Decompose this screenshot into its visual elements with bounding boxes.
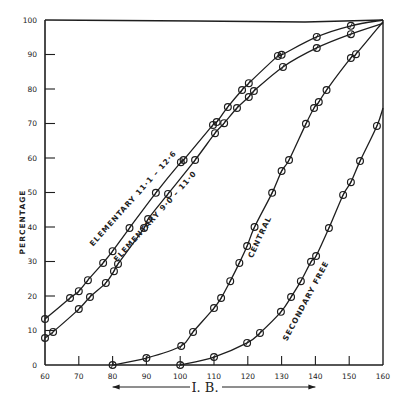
series-2 (109, 22, 383, 369)
data-point-slash (192, 329, 195, 335)
data-point-slash (299, 278, 302, 284)
y-tick-label: 60 (27, 154, 37, 163)
data-point-slash (290, 294, 293, 300)
x-tick-label: 160 (376, 372, 391, 381)
chart: 0102030405060708090100607080901001101201… (0, 0, 403, 408)
data-point-slash (77, 288, 80, 294)
series-line (45, 23, 383, 338)
data-point-slash (86, 277, 89, 283)
x-tick-label: 150 (342, 372, 357, 381)
x-tick-label: 80 (108, 372, 118, 381)
series-line (113, 22, 383, 365)
data-point-slash (154, 190, 157, 196)
data-point-slash (235, 105, 238, 111)
data-point-slash (325, 87, 328, 93)
x-tick-label: 70 (74, 372, 84, 381)
y-tick-label: 90 (27, 50, 37, 59)
y-tick-label: 40 (27, 223, 37, 232)
data-point-slash (349, 179, 352, 185)
series-0 (42, 20, 383, 323)
data-point-slash (253, 224, 256, 230)
data-point-slash (349, 55, 352, 61)
data-point-slash (214, 130, 217, 136)
y-axis-title: PERCENTAGE (18, 190, 27, 255)
y-tick-label: 80 (27, 85, 37, 94)
series-group (42, 20, 383, 368)
y-tick-label: 0 (32, 361, 37, 370)
y-tick-label: 20 (27, 292, 37, 301)
data-point-slash (128, 225, 131, 231)
data-point-slash (69, 295, 72, 301)
data-point-slash (313, 105, 316, 111)
x-tick-label: 90 (142, 372, 152, 381)
x-tick-label: 120 (241, 372, 256, 381)
data-point-slash (104, 280, 107, 286)
data-point-slash (315, 253, 318, 259)
data-point-slash (220, 295, 223, 301)
data-point-slash (226, 104, 229, 110)
arrow-left-head-icon (113, 385, 120, 390)
data-point-slash (280, 168, 283, 174)
data-point-slash (88, 294, 91, 300)
x-tick-label: 130 (274, 372, 289, 381)
series-line (180, 108, 383, 365)
x-tick-label: 100 (173, 372, 188, 381)
data-point-slash (271, 190, 274, 196)
data-point-slash (252, 88, 255, 94)
data-point-slash (258, 330, 261, 336)
data-point-slash (194, 157, 197, 163)
data-point-slash (359, 158, 362, 164)
y-tick-label: 100 (23, 16, 38, 25)
data-point-slash (317, 99, 320, 105)
data-point-slash (310, 259, 313, 265)
data-point-slash (52, 329, 55, 335)
top-border (45, 20, 383, 22)
y-tick-label: 70 (27, 119, 37, 128)
x-tick-label: 60 (40, 372, 50, 381)
x-tick-label: 140 (308, 372, 323, 381)
series-3 (177, 108, 383, 368)
y-tick-label: 10 (27, 326, 37, 335)
data-point-slash (304, 121, 307, 127)
series-line (45, 20, 383, 319)
arrow-right-head-icon (308, 385, 315, 390)
data-point-slash (327, 225, 330, 231)
data-point-slash (102, 260, 105, 266)
y-tick-label: 50 (27, 188, 37, 197)
data-point-slash (213, 305, 216, 311)
data-point-slash (342, 192, 345, 198)
data-point-slash (223, 120, 226, 126)
data-point-slash (111, 248, 114, 254)
x-axis-title: I. B. (191, 380, 218, 395)
data-point-slash (247, 94, 250, 100)
data-point-slash (112, 268, 115, 274)
data-point-slash (375, 123, 378, 129)
data-point-slash (288, 157, 291, 163)
data-point-slash (354, 51, 357, 57)
y-tick-label: 30 (27, 257, 37, 266)
data-point-slash (77, 306, 80, 312)
series-1 (42, 23, 383, 341)
data-point-slash (247, 80, 250, 86)
series-label: ELEMENTARY 9·0 – 11·0 (112, 169, 199, 264)
data-point-slash (279, 309, 282, 315)
data-point-slash (238, 260, 241, 266)
data-point-slash (241, 87, 244, 93)
axes: 0102030405060708090100607080901001101201… (23, 16, 391, 382)
data-point-slash (229, 278, 232, 284)
data-point-slash (246, 243, 249, 249)
